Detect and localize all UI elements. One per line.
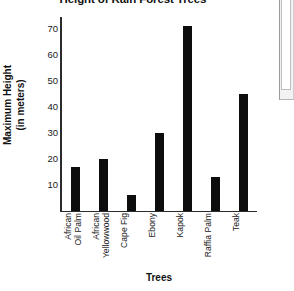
x-axis-label-line: Ebony — [147, 213, 157, 275]
bar-cape-fig — [127, 195, 136, 211]
bar-chart-figure: Height of Rain Forest Trees Maximum Heig… — [0, 0, 294, 291]
y-axis-tick-40: 40 — [32, 102, 58, 112]
y-axis-tick-30: 30 — [32, 128, 58, 138]
x-axis-label-line: Yellowwood — [101, 213, 111, 275]
bar-kapok — [183, 26, 192, 211]
x-axis-title: Trees — [61, 272, 257, 283]
bar-raffia-palm — [211, 177, 220, 211]
y-axis-tick-labels: 10203040506070 — [30, 0, 58, 291]
x-axis-label-teak: Teak — [231, 213, 255, 275]
y-axis-tick-70: 70 — [32, 24, 58, 34]
x-axis-label-ebony: Ebony — [147, 213, 171, 275]
x-axis-label-african-yellowwood: AfricanYellowwood — [91, 213, 115, 275]
bar-ebony — [155, 133, 164, 211]
x-axis-label-african-oil-palm: AfricanOil Palm — [63, 213, 87, 275]
x-axis-category-labels: AfricanOil PalmAfricanYellowwoodCape Fig… — [61, 213, 257, 275]
x-axis-label-cape-fig: Cape Fig — [119, 213, 143, 275]
y-axis-tick-50: 50 — [32, 76, 58, 86]
bar-series — [61, 17, 257, 211]
x-axis-label-line: African — [63, 213, 73, 275]
vertical-scrollbar-track[interactable] — [279, 0, 294, 100]
x-axis-label-line: Oil Palm — [73, 213, 83, 275]
y-axis-title-line2: (in meters) — [15, 45, 28, 165]
x-axis-label-line: Teak — [231, 213, 241, 275]
y-axis-title-line1: Maximum Height — [2, 45, 15, 165]
bar-african-yellowwood — [99, 159, 108, 211]
y-axis-tick-20: 20 — [32, 154, 58, 164]
y-axis-tick-60: 60 — [32, 50, 58, 60]
bar-african-oil-palm — [71, 167, 80, 211]
vertical-scrollbar-thumb[interactable] — [281, 0, 291, 90]
x-axis-label-line: Cape Fig — [119, 213, 129, 275]
x-axis-label-line: Kapok — [175, 213, 185, 275]
x-axis-label-line: African — [91, 213, 101, 275]
x-axis-label-line: Raffia Palm — [203, 213, 213, 275]
y-axis-tick-10: 10 — [32, 180, 58, 190]
bar-teak — [239, 94, 248, 211]
x-axis-label-kapok: Kapok — [175, 213, 199, 275]
x-axis-label-raffia-palm: Raffia Palm — [203, 213, 227, 275]
